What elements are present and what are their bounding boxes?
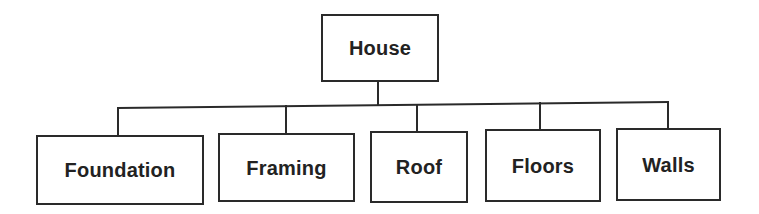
- node-label-floors: Floors: [512, 156, 574, 176]
- node-floors: Floors: [485, 129, 601, 202]
- node-label-foundation: Foundation: [65, 160, 176, 180]
- node-label-walls: Walls: [642, 155, 695, 175]
- node-framing: Framing: [218, 133, 355, 202]
- node-label-house: House: [349, 38, 411, 58]
- node-label-roof: Roof: [396, 157, 442, 177]
- node-roof: Roof: [370, 131, 468, 203]
- node-walls: Walls: [616, 128, 721, 201]
- bus-line: [118, 102, 668, 108]
- node-foundation: Foundation: [36, 135, 204, 205]
- node-label-framing: Framing: [246, 158, 326, 178]
- node-house: House: [321, 14, 439, 82]
